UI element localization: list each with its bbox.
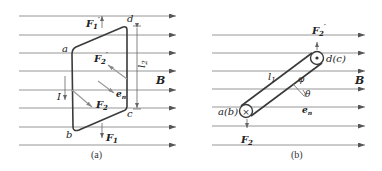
corner-label-c: c	[127, 108, 133, 119]
angle-phi-label: φ	[298, 74, 305, 84]
figure-a: a d c b l2 I F1′ F1 F2′ en	[19, 13, 176, 161]
field-lines-a	[19, 16, 176, 145]
angle-theta-label: θ	[305, 89, 311, 99]
corner-label-b: b	[66, 129, 72, 140]
length-l1-label: l1	[268, 71, 276, 84]
field-lines-b	[212, 35, 365, 145]
normal-vector-arrow	[98, 81, 114, 93]
force-f2-arrow	[72, 90, 92, 107]
corner-label-a: a	[62, 43, 68, 54]
caption-a: (a)	[91, 149, 102, 161]
force-f2-prime-arrow	[108, 65, 127, 79]
field-label-b-a: B	[155, 74, 165, 87]
normal-reference-line	[293, 84, 304, 96]
corner-label-d: d	[127, 13, 133, 24]
coil-edge-view: ×	[240, 52, 324, 118]
field-label-b-b: B	[354, 74, 364, 87]
force-f1-prime-label: F1′	[85, 15, 100, 31]
magnetic-torque-diagram: a d c b l2 I F1′ F1 F2′ en	[0, 0, 382, 171]
force-f2-prime-label: F2′	[93, 50, 108, 66]
current-into-page-icon: ×	[242, 107, 250, 117]
length-l2-label: l2	[136, 60, 149, 68]
current-loop-abcd	[72, 27, 127, 131]
force-f2-label: F2	[95, 99, 108, 112]
current-out-of-page-icon	[315, 56, 318, 59]
force-f2-prime-label-b: F2′	[311, 22, 326, 38]
end-label-dc: d(c)	[326, 53, 346, 64]
caption-b: (b)	[291, 149, 303, 161]
end-label-ab: a(b)	[218, 106, 238, 117]
figure-b: × a(b) d(c) l1 φ θ en F2′ F2 B (	[212, 22, 365, 161]
force-f1-label: F1	[105, 132, 118, 145]
normal-vector-label: en	[116, 89, 126, 100]
current-label: I	[56, 91, 62, 102]
